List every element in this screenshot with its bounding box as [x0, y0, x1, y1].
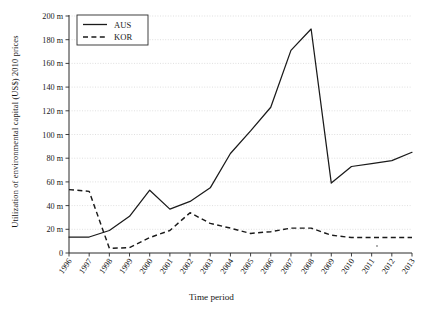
scan-artifact-speck — [376, 245, 378, 247]
y-tick-label: 80 m — [46, 154, 63, 163]
chart-plot-area: 020 m40 m60 m80 m100 m120 m140 m160 m180… — [0, 0, 423, 315]
series-line-kor — [69, 190, 412, 249]
x-tick-label: 1998 — [97, 257, 114, 276]
y-tick-label: 40 m — [46, 202, 63, 211]
y-tick-label: 160 m — [42, 59, 63, 68]
x-tick-label: 1996 — [57, 257, 74, 276]
x-tick-label: 2009 — [319, 257, 336, 276]
x-tick-label: 2006 — [259, 257, 276, 276]
chart-legend: AUSKOR — [77, 15, 148, 45]
y-tick-label: 180 m — [42, 36, 63, 45]
chart-figure: Utilization of environmental capital (US… — [0, 0, 423, 315]
y-tick-label: 60 m — [46, 178, 63, 187]
y-tick-label: 0 — [59, 249, 63, 258]
y-tick-label: 140 m — [42, 83, 63, 92]
x-tick-label: 2005 — [239, 257, 256, 276]
legend-label-aus: AUS — [114, 20, 131, 30]
y-tick-label: 20 m — [46, 225, 63, 234]
x-tick-label: 2008 — [299, 257, 316, 276]
x-tick-label: 2007 — [279, 257, 296, 276]
grid-lines — [69, 16, 412, 229]
x-tick-label: 2011 — [360, 257, 377, 275]
x-tick-label: 2002 — [178, 257, 195, 276]
x-axis-ticks: 1996199719981999200020012002200320042005… — [57, 253, 417, 276]
x-tick-label: 1999 — [118, 257, 135, 276]
x-tick-label: 2013 — [400, 257, 417, 276]
y-axis-ticks: 020 m40 m60 m80 m100 m120 m140 m160 m180… — [42, 12, 69, 258]
x-tick-label: 2000 — [138, 257, 155, 276]
x-tick-label: 2003 — [198, 257, 215, 276]
x-tick-label: 2001 — [158, 257, 175, 276]
axis-lines — [69, 15, 412, 253]
y-tick-label: 100 m — [42, 131, 63, 140]
y-tick-label: 120 m — [42, 107, 63, 116]
data-series-group — [69, 29, 412, 248]
x-tick-label: 2004 — [218, 257, 235, 276]
legend-label-kor: KOR — [114, 32, 132, 42]
y-tick-label: 200 m — [42, 12, 63, 21]
x-tick-label: 2010 — [340, 257, 357, 276]
legend-box — [77, 15, 148, 45]
x-tick-label: 2012 — [380, 257, 397, 276]
x-tick-label: 1997 — [77, 257, 94, 276]
